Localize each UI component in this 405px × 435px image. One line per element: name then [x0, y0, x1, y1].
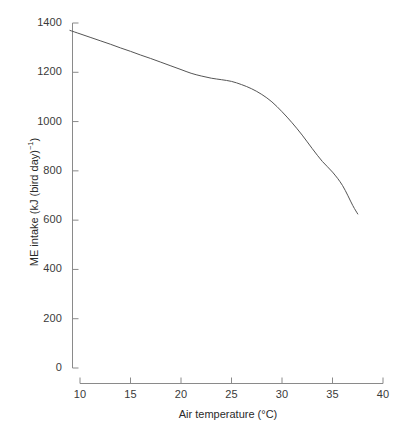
x-axis-ticks: [80, 378, 383, 384]
x-tick-label: 40: [363, 388, 403, 400]
y-tick-label: 1200: [16, 65, 62, 77]
x-tick-label: 10: [60, 388, 100, 400]
y-tick-label: 1400: [16, 16, 62, 28]
x-tick-label: 15: [111, 388, 151, 400]
x-tick-label: 25: [212, 388, 252, 400]
y-axis-title-superscript: −1: [26, 141, 35, 150]
data-series-me-intake: [70, 30, 358, 214]
y-axis-title: ME intake (kJ (bird day)−1): [28, 82, 40, 322]
chart-figure: 0200400600800100012001400 10152025303540…: [0, 0, 405, 435]
x-tick-label: 20: [161, 388, 201, 400]
x-axis-title: Air temperature (°C): [72, 408, 384, 420]
y-tick-label: 0: [16, 361, 62, 373]
y-axis-title-suffix: ): [28, 138, 40, 142]
y-axis-title-prefix: ME intake (kJ (bird day): [28, 150, 40, 266]
y-axis-ticks: [73, 23, 79, 368]
x-tick-label: 35: [313, 388, 353, 400]
x-tick-label: 30: [262, 388, 302, 400]
